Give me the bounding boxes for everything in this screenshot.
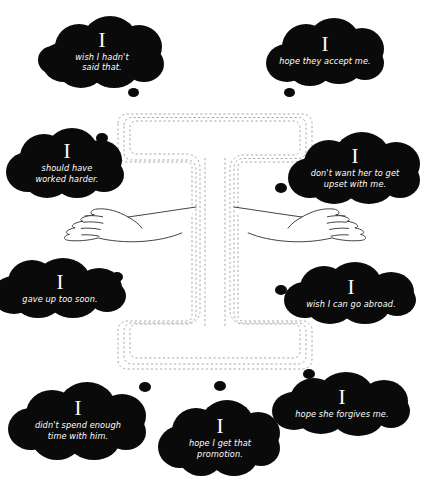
thought-tail-dot: [303, 369, 315, 379]
cloud-puffs: [8, 382, 148, 460]
thought-tail-dot: [128, 88, 139, 97]
cloud-puffs: [288, 132, 422, 204]
illustration-canvas: I wish I hadn't said that. I hope they a…: [0, 0, 430, 483]
thought-tail-dot: [96, 133, 108, 143]
thought-cloud-didnt-spend-enough-time[interactable]: I didn't spend enough time with him.: [8, 382, 148, 460]
thought-tail-dot: [111, 272, 123, 282]
thought-cloud-dont-want-her-upset[interactable]: I don't want her to get upset with me.: [288, 132, 422, 204]
thought-cloud-wish-i-can-go-abroad[interactable]: I wish I can go abroad.: [284, 262, 418, 326]
cloud-puffs: [284, 262, 418, 326]
cloud-puffs: [6, 128, 128, 198]
cloud-puffs: [38, 16, 166, 88]
thought-tail-dot: [284, 88, 295, 97]
thought-cloud-wish-i-hadnt-said-that[interactable]: I wish I hadn't said that.: [38, 16, 166, 88]
cloud-puffs: [158, 400, 282, 476]
thought-tail-dot: [275, 183, 287, 193]
thought-cloud-should-have-worked-harder[interactable]: I should have worked harder.: [6, 128, 128, 198]
cloud-puffs: [264, 18, 386, 86]
thought-cloud-hope-i-get-that-promotion[interactable]: I hope I get that promotion.: [158, 400, 282, 476]
thought-tail-dot: [214, 381, 226, 391]
cloud-puffs: [0, 258, 128, 320]
cloud-puffs: [272, 372, 412, 436]
thought-tail-dot: [139, 382, 151, 392]
thought-tail-dot: [275, 285, 287, 295]
thought-cloud-hope-they-accept-me[interactable]: I hope they accept me.: [264, 18, 386, 86]
thought-cloud-gave-up-too-soon[interactable]: I gave up too soon.: [0, 258, 128, 320]
thought-cloud-hope-she-forgives-me[interactable]: I hope she forgives me.: [272, 372, 412, 436]
